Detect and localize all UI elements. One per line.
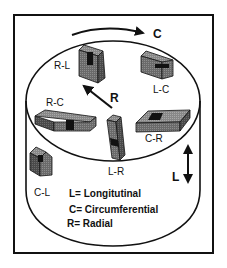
axis-label-l: L	[172, 170, 179, 184]
circumferential-arrow-icon	[72, 29, 143, 35]
specimen-block-r-l	[79, 45, 105, 83]
specimen-label-l-c: L-C	[153, 84, 169, 95]
specimen-label-l-r: L-R	[108, 166, 124, 177]
orientation-diagram: C R L R-L L-C R-C L-R	[0, 0, 227, 268]
specimen-block-r-c	[35, 110, 96, 131]
legend-circumferential: C= Circumferential	[69, 204, 158, 215]
specimen-label-c-r: C-R	[145, 133, 163, 144]
specimen-block-l-r	[107, 115, 125, 160]
axis-label-r: R	[110, 91, 119, 105]
legend-radial: R= Radial	[67, 218, 113, 229]
specimen-block-c-r	[136, 110, 190, 132]
specimen-label-r-l: R-L	[54, 60, 71, 71]
specimen-block-c-l	[30, 147, 52, 176]
legend-longitudinal: L= Longitutinal	[69, 188, 141, 199]
radial-arrow-icon	[84, 86, 112, 108]
specimen-label-r-c: R-C	[46, 97, 64, 108]
specimen-label-c-l: C-L	[34, 187, 51, 198]
axis-label-c: C	[153, 27, 162, 41]
